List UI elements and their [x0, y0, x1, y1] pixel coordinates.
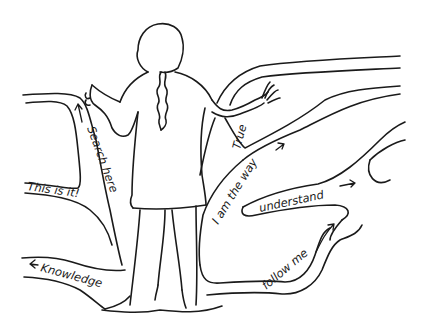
arrow-left-icon: [30, 260, 38, 268]
arrow-right-icon: [276, 143, 284, 150]
branch-middle-left: [25, 193, 112, 245]
arrow-up-right-icon: [316, 224, 334, 252]
arrow-up-icon: [75, 104, 82, 122]
label-this-is-it: This is it!: [27, 179, 81, 200]
label-follow-me: follow me: [259, 246, 311, 293]
trunk-base: [102, 306, 222, 312]
label-search-here: Search here: [84, 124, 121, 194]
branch-follow-me: [200, 220, 362, 295]
branch-upper-right: [217, 56, 400, 105]
arrow-right-icon: [340, 180, 355, 187]
label-understand: understand: [258, 187, 326, 215]
illustration: Search here This is it! Knowledge True I…: [0, 0, 427, 334]
